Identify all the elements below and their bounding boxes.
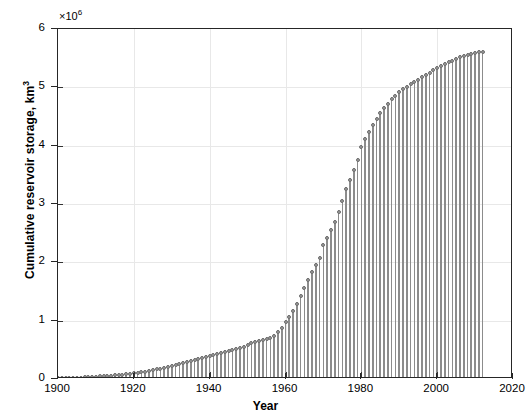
x-tick-label: 1940 <box>179 383 239 395</box>
stem-bar <box>421 75 423 377</box>
y-tick-label: 6 <box>0 22 45 34</box>
stem-bar <box>277 330 279 377</box>
x-tick-inner <box>361 372 362 377</box>
x-tick <box>512 373 513 379</box>
y-tick <box>51 86 57 87</box>
stem-marker <box>295 302 299 306</box>
x-tick <box>360 373 361 379</box>
stem-bar <box>361 145 363 377</box>
stem-bar <box>387 102 389 377</box>
stem-bar <box>254 340 256 377</box>
stem-bar <box>410 82 412 377</box>
stem-bar <box>349 178 351 378</box>
stem-bar <box>281 326 283 377</box>
stem-bar <box>436 66 438 377</box>
stem-bar <box>368 130 370 377</box>
stem-bar <box>383 106 385 377</box>
stem-bar <box>478 50 480 377</box>
x-tick <box>133 373 134 379</box>
stem-marker <box>348 178 352 182</box>
stem-marker <box>302 286 306 290</box>
y-axis-title: Cumulative reservoir storage, km3 <box>21 55 37 305</box>
stem-bar <box>243 345 245 377</box>
x-tick-label: 1980 <box>330 383 390 395</box>
stem-bar <box>247 343 249 377</box>
y-tick-label: 1 <box>0 314 45 326</box>
stem-marker <box>393 94 397 98</box>
stem-marker <box>352 168 356 172</box>
stem-bar <box>455 57 457 377</box>
stem-marker <box>318 256 322 260</box>
stem-bar <box>482 50 484 377</box>
stem-bar <box>342 199 344 378</box>
stem-bar <box>417 78 419 377</box>
stem-marker <box>287 315 291 319</box>
stem-bar <box>429 71 431 377</box>
stem-marker <box>314 263 318 267</box>
x-tick-label: 2000 <box>406 383 466 395</box>
stem-bar <box>463 54 465 377</box>
y-tick-inner <box>58 262 63 263</box>
y-tick-label: 0 <box>0 372 45 384</box>
y-tick <box>51 28 57 29</box>
stem-bar <box>448 60 450 377</box>
stem-bar <box>273 334 275 377</box>
stem-marker <box>280 326 284 330</box>
stem-bar <box>372 123 374 377</box>
stem-bar <box>224 350 226 377</box>
x-tick-inner <box>286 372 287 377</box>
x-tick-label: 1960 <box>255 383 315 395</box>
y-tick-inner <box>58 321 63 322</box>
y-tick <box>51 203 57 204</box>
stem-marker <box>363 137 367 141</box>
stem-bar <box>319 256 321 377</box>
stem-bar <box>311 270 313 377</box>
stem-bar <box>433 68 435 377</box>
x-tick <box>57 373 58 379</box>
stem-bar <box>376 117 378 377</box>
stem-marker <box>276 330 280 334</box>
y-tick-label: 2 <box>0 255 45 267</box>
stem-marker <box>321 243 325 247</box>
x-tick-label: 1900 <box>27 383 87 395</box>
stem-bar <box>330 228 332 377</box>
stem-bar <box>452 59 454 378</box>
x-tick-inner <box>134 372 135 377</box>
stem-bar <box>315 263 317 377</box>
stem-bar <box>444 62 446 377</box>
stem-marker <box>333 220 337 224</box>
stem-bar <box>406 85 408 377</box>
x-axis-title: Year <box>0 399 531 413</box>
y-tick-inner <box>58 87 63 88</box>
stem-marker <box>405 85 409 89</box>
stem-marker <box>291 309 295 313</box>
stem-bar <box>474 51 476 377</box>
stem-bar <box>334 220 336 378</box>
stem-bar <box>251 341 253 377</box>
stem-bar <box>440 64 442 377</box>
stem-marker <box>325 236 329 240</box>
stem-marker <box>299 294 303 298</box>
stem-marker <box>306 278 310 282</box>
y-axis-exponent-label: ×106 <box>59 8 82 22</box>
stem-marker <box>284 320 288 324</box>
stem-bar <box>391 97 393 377</box>
stem-bar <box>270 336 272 377</box>
stem-bar <box>300 294 302 377</box>
y-tick-label: 4 <box>0 139 45 151</box>
stem-bar <box>379 111 381 377</box>
stem-marker <box>359 145 363 149</box>
figure: ×106 Cumulative reservoir storage, km3 Y… <box>0 0 531 420</box>
x-tick-inner <box>437 372 438 377</box>
stem-series <box>58 29 511 377</box>
stem-bar <box>262 338 264 377</box>
stem-bar <box>288 315 290 377</box>
x-tick-inner <box>210 372 211 377</box>
y-tick <box>51 145 57 146</box>
stem-bar <box>357 158 359 377</box>
stem-marker <box>356 158 360 162</box>
stem-bar <box>338 210 340 377</box>
stem-marker <box>344 187 348 191</box>
x-tick <box>436 373 437 379</box>
y-tick <box>51 261 57 262</box>
